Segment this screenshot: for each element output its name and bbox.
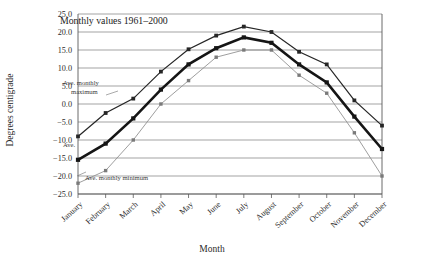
y-tick-label: −25.0 xyxy=(53,190,72,199)
x-tick-label-april: April xyxy=(148,199,167,218)
x-tick-label-november: November xyxy=(329,200,361,230)
y-tick-label: 20.0 xyxy=(58,28,72,37)
annotation-leader-line xyxy=(106,91,118,95)
data-point-marker xyxy=(297,74,300,77)
y-tick-label: −5.0 xyxy=(57,118,72,127)
y-tick-label: −15.0 xyxy=(53,154,72,163)
series-line xyxy=(78,50,382,183)
x-tick-label-august: August xyxy=(254,199,278,222)
y-tick-label: 10.0 xyxy=(58,64,72,73)
data-point-marker xyxy=(242,35,246,39)
data-point-marker xyxy=(214,46,218,50)
x-tick-label-december: December xyxy=(357,200,388,229)
chart-container: −25.0−20.0−15.0−10.0−5.00.05.010.015.020… xyxy=(0,0,424,265)
data-point-marker xyxy=(380,147,384,151)
data-point-marker xyxy=(269,41,273,45)
y-tick-label: 0.0 xyxy=(62,100,72,109)
data-point-marker xyxy=(76,182,79,185)
data-point-marker xyxy=(325,80,329,84)
x-axis-tick-marks xyxy=(78,194,382,198)
data-point-marker xyxy=(159,102,162,105)
series-ave-monthly-minimum xyxy=(76,48,383,185)
x-tick-label-march: March xyxy=(118,200,140,221)
data-point-marker xyxy=(76,158,80,162)
data-point-marker xyxy=(104,169,107,172)
data-point-marker xyxy=(104,111,108,115)
data-point-marker xyxy=(242,25,246,29)
x-tick-label-may: May xyxy=(178,199,196,216)
data-point-marker xyxy=(76,135,80,139)
data-point-marker xyxy=(159,70,163,74)
data-point-marker xyxy=(131,97,135,101)
data-point-marker xyxy=(270,48,273,51)
data-point-marker xyxy=(380,174,383,177)
annotation-text: Ave. xyxy=(63,141,75,148)
data-point-marker xyxy=(242,48,245,51)
annotation-text: maximum xyxy=(71,88,99,95)
data-point-marker xyxy=(186,62,190,66)
data-point-marker xyxy=(270,30,274,34)
series-layer xyxy=(76,25,384,185)
data-point-marker xyxy=(131,116,135,120)
data-point-marker xyxy=(297,62,301,66)
series-line xyxy=(78,37,382,159)
x-tick-label-october: October xyxy=(307,200,333,225)
data-point-marker xyxy=(187,47,191,51)
data-point-marker xyxy=(325,92,328,95)
x-axis-title: Month xyxy=(199,244,225,254)
annotation-text: Ave. monthly minimum xyxy=(85,174,149,181)
chart-title: Monthly values 1961–2000 xyxy=(60,15,168,26)
data-point-marker xyxy=(187,79,190,82)
data-point-marker xyxy=(325,63,329,67)
series-ave xyxy=(76,35,384,162)
data-point-marker xyxy=(352,115,356,119)
data-point-marker xyxy=(380,124,384,128)
x-tick-label-february: February xyxy=(84,199,113,226)
x-tick-label-january: January xyxy=(59,199,85,223)
data-point-marker xyxy=(132,138,135,141)
y-tick-label: −20.0 xyxy=(53,172,72,181)
y-axis-title: Degrees centigrade xyxy=(5,73,15,146)
monthly-temperature-line-chart: −25.0−20.0−15.0−10.0−5.00.05.010.015.020… xyxy=(0,0,424,265)
data-point-marker xyxy=(353,131,356,134)
data-point-marker xyxy=(104,142,108,146)
data-point-marker xyxy=(159,88,163,92)
annotation-ave: Ave. xyxy=(63,141,75,148)
data-point-marker xyxy=(214,56,217,59)
x-axis-month-labels: JanuaryFebruaryMarchAprilMayJuneJulyAugu… xyxy=(59,199,388,230)
x-tick-label-july: July xyxy=(234,199,251,215)
data-point-marker xyxy=(297,50,301,54)
annotation-text: Ave. monthly xyxy=(63,79,99,86)
y-axis-tick-labels: −25.0−20.0−15.0−10.0−5.00.05.010.015.020… xyxy=(53,10,72,199)
y-tick-label: 15.0 xyxy=(58,46,72,55)
x-tick-label-september: September xyxy=(273,200,305,230)
data-point-marker xyxy=(214,34,218,38)
x-tick-label-june: June xyxy=(205,200,222,217)
data-point-marker xyxy=(352,99,356,103)
annotation-ave-monthly-minimum: Ave. monthly minimum xyxy=(85,174,149,181)
annotation-layer: Ave. monthlymaximumAve.Ave. monthly mini… xyxy=(63,79,149,181)
